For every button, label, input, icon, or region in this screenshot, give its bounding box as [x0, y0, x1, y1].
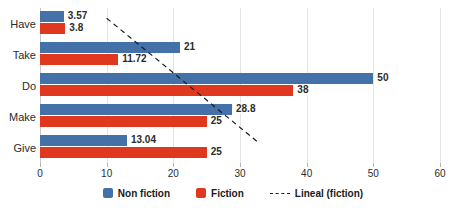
x-tick: [107, 163, 108, 167]
bar-fiction: [40, 147, 207, 158]
category-label-take: Take: [0, 49, 36, 61]
bar-group: 5038: [40, 70, 440, 101]
bar-nonfiction: [40, 42, 180, 53]
bar-fiction: [40, 54, 118, 65]
bar-value-label: 38: [296, 84, 309, 95]
bar-group: 28.825: [40, 101, 440, 132]
bar-value-label: 25: [210, 146, 223, 157]
bar-value-label: 50: [376, 72, 389, 83]
x-tick-label: 10: [101, 168, 112, 179]
bar-value-label: 28.8: [235, 103, 256, 114]
dashed-line-icon: [270, 193, 290, 194]
x-tick: [173, 163, 174, 167]
bar-fiction: [40, 23, 65, 34]
x-tick-label: 30: [234, 168, 245, 179]
bar-chart: HaveTakeDoMakeGive 3.573.82111.72503828.…: [0, 0, 466, 208]
x-tick-label: 20: [168, 168, 179, 179]
x-axis: 0102030405060: [40, 163, 440, 181]
bar-fiction: [40, 116, 207, 127]
bar-value-label: 3.8: [68, 22, 84, 33]
legend-swatch-icon: [196, 188, 206, 198]
legend-label: Non fiction: [118, 188, 170, 199]
bar-group: 3.573.8: [40, 8, 440, 39]
bar-group: 13.0425: [40, 132, 440, 163]
category-axis: HaveTakeDoMakeGive: [0, 8, 36, 163]
bar-nonfiction: [40, 104, 232, 115]
bar-value-label: 11.72: [121, 53, 147, 64]
x-tick: [440, 163, 441, 167]
gridline: [440, 8, 441, 163]
legend-label: Fiction: [211, 188, 244, 199]
plot-area: 3.573.82111.72503828.82513.0425: [40, 8, 440, 163]
x-tick-label: 50: [368, 168, 379, 179]
legend-swatch-icon: [103, 188, 113, 198]
x-tick-label: 60: [434, 168, 445, 179]
bar-value-label: 21: [183, 41, 196, 52]
legend-item[interactable]: Non fiction: [103, 188, 170, 199]
x-tick-label: 40: [301, 168, 312, 179]
bar-fiction: [40, 85, 293, 96]
legend-item[interactable]: Lineal (fiction): [270, 188, 363, 199]
bar-nonfiction: [40, 135, 127, 146]
category-label-make: Make: [0, 111, 36, 123]
category-label-give: Give: [0, 142, 36, 154]
legend-item[interactable]: Fiction: [196, 188, 244, 199]
x-tick: [307, 163, 308, 167]
x-tick-label: 0: [37, 168, 43, 179]
bar-nonfiction: [40, 11, 64, 22]
category-label-do: Do: [0, 80, 36, 92]
bar-value-label: 13.04: [130, 134, 157, 145]
legend-label: Lineal (fiction): [295, 188, 363, 199]
bar-nonfiction: [40, 73, 373, 84]
bar-group: 2111.72: [40, 39, 440, 70]
x-tick: [40, 163, 41, 167]
category-label-have: Have: [0, 18, 36, 30]
bar-value-label: 3.57: [67, 10, 88, 21]
x-tick: [240, 163, 241, 167]
chart-legend: Non fictionFictionLineal (fiction): [0, 184, 466, 202]
bar-value-label: 25: [210, 115, 223, 126]
x-tick: [373, 163, 374, 167]
